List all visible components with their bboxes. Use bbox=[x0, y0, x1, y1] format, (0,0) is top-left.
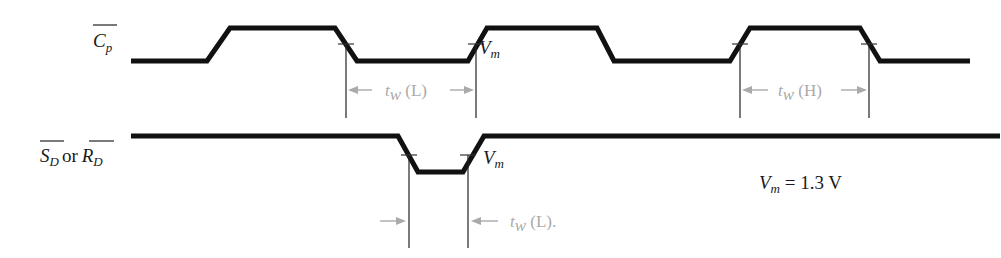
vm-label-cp: Vm bbox=[479, 37, 500, 61]
sd-rd-waveform bbox=[131, 136, 1000, 172]
cp-signal-label: Cp bbox=[93, 25, 117, 55]
arrow-left-icon bbox=[742, 86, 752, 94]
sd-label-main: S bbox=[40, 145, 50, 166]
sd-rd-signal-label: SDorRD bbox=[40, 141, 114, 169]
cp-waveform bbox=[131, 28, 970, 61]
vm-label-sd: Vm bbox=[483, 147, 504, 171]
tw-low-sd-label: tw (L). bbox=[510, 212, 556, 235]
arrow-right-icon bbox=[857, 86, 867, 94]
tw-high-clock-dimension: tw (H) bbox=[742, 81, 867, 104]
timing-diagram: Cp SDorRD Vm Vm tw (L) bbox=[0, 0, 1001, 258]
arrow-right-icon bbox=[464, 86, 474, 94]
svg-text:Cp: Cp bbox=[93, 30, 113, 55]
arrow-left-icon bbox=[348, 86, 358, 94]
cp-label-main: C bbox=[93, 30, 106, 51]
tw-low-clock-label: tw (L) bbox=[385, 81, 427, 104]
tw-low-clock-dimension: tw (L) bbox=[348, 81, 474, 104]
arrow-right-icon bbox=[396, 217, 406, 225]
rd-label-main: R bbox=[81, 145, 94, 166]
or-label: or bbox=[62, 145, 79, 166]
arrow-left-icon bbox=[471, 217, 481, 225]
rd-label-sub: D bbox=[92, 154, 103, 169]
vm-equation: Vm = 1.3 V bbox=[759, 172, 842, 196]
cp-label-sub: p bbox=[105, 40, 113, 55]
tw-high-clock-label: tw (H) bbox=[778, 81, 822, 104]
svg-text:SDorRD: SDorRD bbox=[40, 145, 103, 169]
sd-label-sub: D bbox=[49, 154, 60, 169]
